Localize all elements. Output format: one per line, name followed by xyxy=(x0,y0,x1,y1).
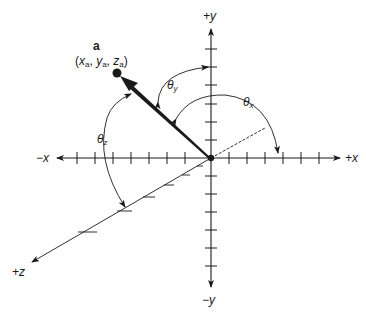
theta-x-label: θx xyxy=(243,96,254,110)
vector-name-label: a xyxy=(93,40,100,52)
negative-z-dashed-extension xyxy=(211,128,265,158)
pos-x-axis-label: +x xyxy=(345,152,358,164)
vector-coordinates-label: (xa, ya, za) xyxy=(75,55,128,69)
pos-z-axis-label: +z xyxy=(12,266,25,278)
theta-z-subscript: z xyxy=(104,138,108,147)
neg-x-axis-label: −x xyxy=(36,152,49,164)
vector-endpoint-dot xyxy=(113,69,122,78)
theta-z-label: θz xyxy=(97,133,108,147)
origin-point xyxy=(208,155,214,161)
z-axis xyxy=(32,128,265,262)
theta-y-label: θy xyxy=(167,79,178,93)
coord-close: ) xyxy=(124,54,128,68)
theta-x-subscript: x xyxy=(250,101,254,110)
pos-y-axis-label: +y xyxy=(203,10,216,22)
theta-y-subscript: y xyxy=(174,84,178,93)
theta-z-arc xyxy=(104,118,125,207)
x-axis xyxy=(57,152,340,164)
vector-a xyxy=(113,69,212,160)
theta-y-arc xyxy=(158,67,208,102)
vector-direction-angles-diagram xyxy=(0,0,366,316)
theta-x-arc xyxy=(176,95,278,153)
neg-y-axis-label: −y xyxy=(202,294,215,306)
